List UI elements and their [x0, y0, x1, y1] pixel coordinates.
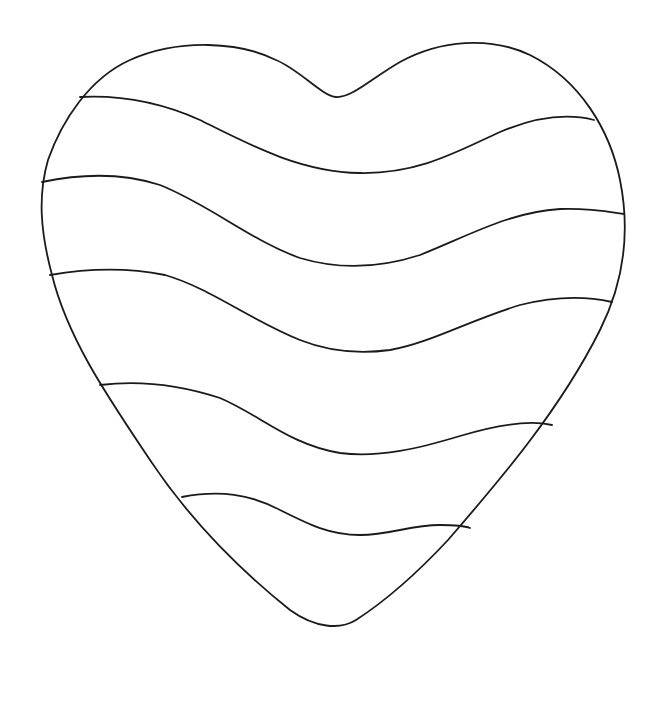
stripe-3	[50, 270, 612, 352]
striped-heart-drawing	[0, 0, 660, 702]
heart-outline	[42, 43, 625, 626]
stripe-5	[182, 494, 470, 535]
stripe-4	[100, 383, 552, 454]
stripe-2	[42, 176, 624, 266]
stripe-1	[80, 97, 594, 173]
